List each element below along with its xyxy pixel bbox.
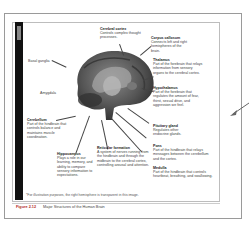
label-hippocampus: Hippocampus Plays a role in our learning… — [57, 152, 95, 177]
label-cerebral-cortex: Cerebral cortex Controls complex thought… — [100, 27, 142, 40]
label-basal-ganglia: Basal ganglia — [28, 59, 56, 63]
figure-caption: Figure 2.12 Major Structures of the Huma… — [16, 205, 105, 209]
label-reticular-formation: Reticular formation A system of nerves r… — [97, 146, 151, 167]
label-medulla: Medulla Part of the hindbrain that contr… — [153, 166, 215, 179]
label-pons: Pons Part of the hindbrain that relays m… — [153, 144, 213, 161]
side-bar — [15, 22, 23, 200]
label-amygdala: Amygdala — [40, 91, 64, 95]
label-cerebellum: Cerebellum Part of the hindbrain that co… — [27, 118, 71, 139]
caption-number: Figure 2.12 — [16, 205, 36, 209]
label-pituitary-gland: Pituitary gland Regulates other endocrin… — [153, 124, 193, 137]
pointer-arrow-icon — [228, 100, 249, 122]
caption-text: Major Structures of the Human Brain — [43, 205, 105, 209]
figure-footnote: *For illustration purposes, the right he… — [26, 193, 139, 197]
caption-divider — [12, 203, 220, 204]
side-tab — [17, 26, 21, 40]
label-hypothalamus: Hypothalamus Part of the forebrain that … — [153, 86, 199, 107]
label-corpus-callosum: Corpus callosum Connects left and right … — [151, 36, 191, 53]
label-thalamus: Thalamus Part of the forebrain that rela… — [153, 58, 203, 75]
brain-illustration — [70, 46, 156, 122]
